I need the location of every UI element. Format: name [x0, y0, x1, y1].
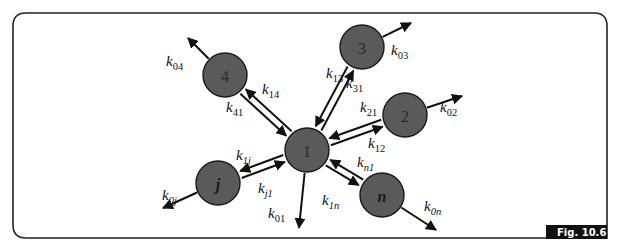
- figure-tag-label: Fig. 10.6: [557, 227, 606, 238]
- outflow-label-k03: k03: [391, 42, 408, 61]
- compartment-1: 1: [285, 128, 329, 172]
- figure-frame: [13, 13, 607, 238]
- edge-label-kj1: kj1: [258, 180, 273, 199]
- edge-label-kn1: kn1: [357, 154, 374, 173]
- outflow-arrow: [299, 173, 305, 228]
- compartment-label: n: [378, 188, 387, 205]
- outflow-label-k0j: k0j: [162, 187, 177, 206]
- edge-label-k1n: k1n: [322, 192, 339, 211]
- edge-arrow: [326, 165, 359, 185]
- compartment-label: 1: [303, 143, 311, 160]
- outflow-label-k0n: k0n: [424, 198, 441, 217]
- outflow-arrow: [188, 38, 209, 59]
- edge-label-k13: k13: [326, 65, 343, 84]
- edge-label-k41: k41: [226, 99, 243, 118]
- compartment-label: 2: [401, 108, 409, 125]
- edge-k14: [240, 94, 286, 136]
- compartment-n: n: [360, 173, 404, 217]
- compartment-4: 4: [203, 53, 247, 97]
- figure-tag: Fig. 10.6: [546, 225, 607, 239]
- outflow-label-k01: k01: [268, 205, 285, 224]
- edge-arrow: [240, 94, 286, 136]
- compartment-j: j: [196, 161, 240, 205]
- outflow-k01: [299, 173, 305, 228]
- compartment-2: 2: [383, 93, 427, 137]
- outflow-label-k02: k02: [440, 99, 457, 118]
- outflow-label-k04: k04: [166, 53, 184, 72]
- edge-label-k14: k14: [262, 81, 280, 100]
- outflow-arrow: [383, 23, 411, 37]
- edge-label-k31: k31: [346, 75, 363, 94]
- edge-label-k1j: k1j: [236, 147, 251, 166]
- outflow-k03: [383, 23, 411, 37]
- compartment-diagram: 1234jn k21k12k31k13k41k14kj1k1jkn1k1nk01…: [0, 0, 618, 248]
- edge-label-k21: k21: [360, 99, 377, 118]
- outflow-k04: [188, 38, 209, 59]
- edge-label-k12: k12: [368, 135, 385, 154]
- edge-kn1: [326, 165, 359, 185]
- compartment-label: 4: [221, 68, 229, 85]
- compartment-label: 3: [358, 40, 366, 57]
- compartment-3: 3: [340, 25, 384, 69]
